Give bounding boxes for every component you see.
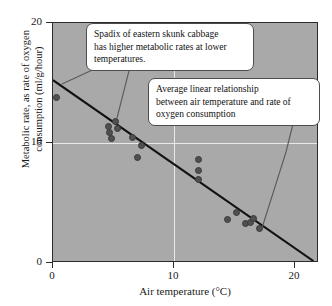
- callout-two-line1: Average linear relationship: [156, 83, 312, 96]
- data-point: [108, 135, 115, 142]
- x-ticklabel-0: 0: [32, 270, 72, 281]
- x-tick-0: [52, 262, 53, 268]
- callout-spadix-note: Spadix of eastern skunk cabbage has high…: [86, 23, 254, 71]
- y-tick-10: [46, 142, 52, 143]
- callout-trendline-note: Average linear relationship between air …: [148, 78, 320, 126]
- data-point: [195, 176, 202, 183]
- x-tick-10: [173, 262, 174, 268]
- data-point: [129, 134, 136, 141]
- y-axis-label: Metabolic rate, as rate of oxygen consum…: [19, 0, 45, 219]
- data-point: [134, 154, 141, 161]
- callout-two-line2: between air temperature and rate of: [156, 96, 312, 109]
- data-point: [53, 94, 60, 101]
- y-axis-label-line2: consumption (ml/g/hour): [32, 0, 45, 219]
- data-point: [138, 142, 145, 149]
- x-tick-20: [294, 262, 295, 268]
- callout-one-line1: Spadix of eastern skunk cabbage: [94, 28, 246, 41]
- x-ticklabel-20: 20: [274, 270, 314, 281]
- callout-two-line3: oxygen consumption: [156, 108, 312, 121]
- x-axis-label: Air temperature (°C): [52, 286, 318, 297]
- x-ticklabel-10: 10: [153, 270, 193, 281]
- data-point: [224, 216, 231, 223]
- callout-one-line2: has higher metabolic rates at lower: [94, 41, 246, 54]
- y-ticklabel-0: 0: [2, 256, 42, 267]
- data-point: [195, 156, 202, 163]
- data-point: [114, 125, 121, 132]
- y-tick-20: [46, 22, 52, 23]
- callout-one-line3: temperatures.: [94, 53, 246, 66]
- y-axis-label-line1: Metabolic rate, as rate of oxygen: [19, 0, 32, 219]
- data-point: [195, 167, 202, 174]
- scatter-plot-figure: 0 10 20 0 10 20 Air temperature (°C) Met…: [0, 0, 332, 306]
- data-point: [256, 225, 263, 232]
